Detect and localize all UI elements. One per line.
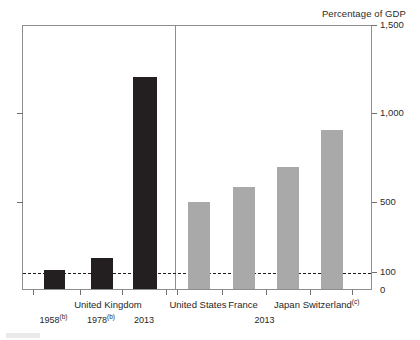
y-tick-100 (372, 272, 377, 273)
category-tick (166, 290, 167, 295)
category-tick (352, 290, 353, 295)
bar-1978 (91, 258, 113, 289)
category-tick (266, 290, 267, 295)
y-tick-1500 (372, 25, 377, 26)
category-tick (177, 290, 178, 295)
y-tick-label-500: 500 (380, 197, 396, 207)
bar-france (233, 187, 255, 289)
category-label-1978: 1978(b) (87, 315, 115, 325)
category-tick (222, 290, 223, 295)
category-label-2013: 2013 (134, 315, 154, 325)
chart-plot-area (23, 26, 371, 289)
bar-switzerland (321, 130, 343, 289)
y-tick-1000 (372, 113, 377, 114)
category-label-switzerland: Switzerland(c) (303, 299, 360, 310)
y-tick-500 (372, 202, 377, 203)
scan-artifact (6, 333, 40, 338)
bar-united-states (188, 202, 210, 289)
category-label-united-states: United States (169, 299, 226, 310)
category-tick (310, 290, 311, 295)
bar-1958 (44, 270, 65, 289)
left-tick-1000 (17, 113, 23, 114)
category-tick (80, 290, 81, 295)
chart-plot-frame (22, 25, 372, 290)
y-tick-label-0: 0 (380, 285, 385, 295)
chart-axis-title: Percentage of GDP (0, 8, 406, 19)
category-label-france: France (228, 299, 258, 310)
category-label-japan: Japan (274, 299, 300, 310)
group-label-united-kingdom: United Kingdom (74, 299, 142, 310)
category-tick (33, 290, 34, 295)
chart-left-axis (16, 25, 23, 290)
bar-2013 (133, 77, 157, 289)
y-tick-label-100: 100 (380, 267, 396, 277)
y-tick-label-1500: 1,500 (380, 20, 404, 30)
bar-japan (277, 167, 299, 289)
category-tick (122, 290, 123, 295)
chart-right-axis: 01005001,0001,500 (372, 25, 418, 290)
left-tick-500 (17, 202, 23, 203)
group-label-2013: 2013 (254, 315, 274, 325)
y-tick-label-1000: 1,000 (380, 108, 404, 118)
category-label-1958: 1958(b) (40, 315, 68, 325)
panel-divider (175, 26, 176, 289)
